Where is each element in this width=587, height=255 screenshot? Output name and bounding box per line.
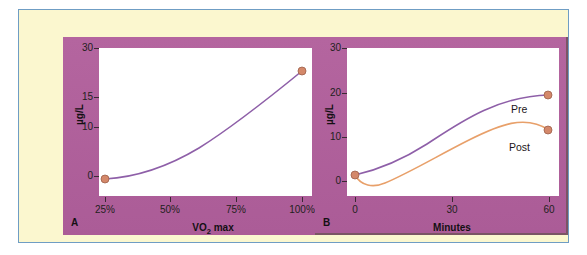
y-axis-title-a: µg/L <box>74 98 85 132</box>
y-tick-label-a-0: 0 <box>63 171 93 181</box>
y-tick-mark-b-0 <box>342 181 347 182</box>
y-tick-mark-b-10 <box>342 137 347 138</box>
x-tick-mark-a-25 <box>105 197 106 202</box>
y-tick-label-b-0: 0 <box>315 176 341 186</box>
data-point-marker <box>101 175 109 183</box>
figure-outer-frame: 30 15 10 0 µg/L 25% 50% 75% 100% VO2 max… <box>18 9 569 243</box>
data-point-marker <box>544 126 552 134</box>
x-tick-label-a-75: 75% <box>216 205 256 215</box>
x-tick-mark-a-50 <box>170 197 171 202</box>
y-axis-title-b: µg/L <box>324 98 335 132</box>
x-tick-mark-a-100 <box>302 197 303 202</box>
panel-letter-a: A <box>71 217 78 228</box>
y-tick-mark-b-20 <box>342 93 347 94</box>
series-line-post <box>355 122 549 185</box>
chart-panel-a: 30 15 10 0 µg/L 25% 50% 75% 100% VO2 max… <box>63 37 315 235</box>
x-tick-label-b-30: 30 <box>432 205 472 215</box>
x-tick-label-a-50: 50% <box>150 205 190 215</box>
x-axis-title-a: VO2 max <box>123 222 303 236</box>
x-axis-title-b: Minutes <box>372 222 532 233</box>
y-tick-mark-a-10 <box>94 127 99 128</box>
panel-letter-b: B <box>323 217 330 228</box>
y-tick-mark-a-30 <box>94 48 99 49</box>
x-tick-mark-a-75 <box>236 197 237 202</box>
data-point-marker <box>544 91 552 99</box>
y-tick-mark-a-15 <box>94 97 99 98</box>
plot-area-a <box>99 48 312 196</box>
x-tick-label-b-60: 60 <box>529 205 569 215</box>
data-point-marker <box>351 171 359 179</box>
x-axis-title-a-tail: max <box>211 222 234 233</box>
y-tick-mark-a-0 <box>94 176 99 177</box>
series-label-post: Post <box>509 141 530 153</box>
y-tick-label-b-30: 30 <box>315 43 341 53</box>
data-point-marker <box>298 67 306 75</box>
y-tick-label-a-30: 30 <box>63 43 93 53</box>
y-tick-label-b-20: 20 <box>315 88 341 98</box>
series-label-pre: Pre <box>511 103 527 115</box>
x-tick-label-a-25: 25% <box>85 205 125 215</box>
panel-b-curves <box>347 48 559 196</box>
x-tick-mark-b-60 <box>549 197 550 202</box>
y-tick-label-b-10: 10 <box>315 132 341 142</box>
chart-panel-b: 30 20 10 0 µg/L 0 30 60 Minutes B Pre Po… <box>315 37 568 235</box>
figure-root: 30 15 10 0 µg/L 25% 50% 75% 100% VO2 max… <box>0 0 587 255</box>
plot-area-b <box>347 48 559 196</box>
y-tick-mark-b-30 <box>342 48 347 49</box>
panel-a-curves <box>99 48 312 196</box>
x-tick-mark-b-30 <box>452 197 453 202</box>
x-tick-label-b-0: 0 <box>335 205 375 215</box>
x-axis-title-a-main: VO <box>192 222 206 233</box>
x-tick-mark-b-0 <box>355 197 356 202</box>
series-line-a <box>105 71 302 179</box>
